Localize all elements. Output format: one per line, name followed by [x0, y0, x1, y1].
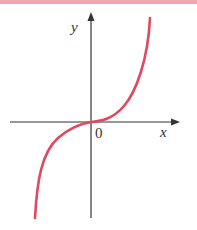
cubic-graph: y 0 x — [0, 0, 197, 230]
x-axis-label: x — [159, 124, 167, 140]
y-axis-label: y — [69, 19, 78, 35]
function-curve — [35, 18, 150, 218]
x-axis-arrow-icon — [171, 119, 180, 126]
origin-label: 0 — [95, 125, 103, 141]
y-axis-arrow-icon — [88, 12, 95, 21]
